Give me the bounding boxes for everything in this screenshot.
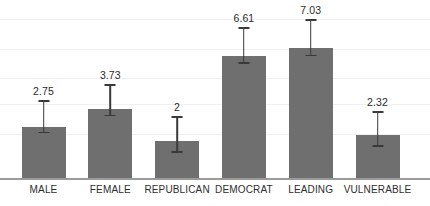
- error-bar-line: [176, 116, 178, 151]
- bar-value-label: 2.32: [367, 96, 388, 108]
- error-bar-line: [310, 19, 312, 54]
- error-bar-cap-top: [172, 116, 183, 118]
- error-bar-line: [377, 111, 379, 145]
- bar-value-label: 2: [174, 101, 180, 113]
- error-bar-cap-top: [38, 100, 49, 102]
- error-bar-cap-bottom: [305, 55, 316, 57]
- bar-value-label: 7.03: [300, 4, 321, 16]
- error-bar-line: [110, 84, 112, 114]
- error-bar-cap-bottom: [238, 62, 249, 64]
- bar-value-label: 6.61: [233, 12, 254, 24]
- bar: [222, 56, 266, 178]
- bar: [22, 127, 66, 178]
- category-label: FEMALE: [90, 184, 131, 195]
- gridline: [0, 19, 430, 20]
- gridline: [0, 104, 430, 105]
- bar-value-label: 3.73: [100, 69, 121, 81]
- error-bar-cap-top: [105, 84, 116, 86]
- error-bar-cap-bottom: [372, 145, 383, 147]
- bar: [289, 48, 333, 178]
- error-bar-cap-bottom: [172, 151, 183, 153]
- error-bar-cap-bottom: [38, 132, 49, 134]
- plot-area: 2.753.7326.617.032.32 MALEFEMALEREPUBLIC…: [0, 0, 430, 206]
- bar-value-label: 2.75: [33, 85, 54, 97]
- category-label: MALE: [30, 184, 58, 195]
- category-label: DEMOCRAT: [215, 184, 273, 195]
- bar-chart: 2.753.7326.617.032.32 MALEFEMALEREPUBLIC…: [0, 0, 430, 206]
- gridline: [0, 49, 430, 50]
- category-label: LEADING: [288, 184, 333, 195]
- error-bar-line: [243, 27, 245, 62]
- bar: [88, 109, 132, 178]
- x-axis-baseline: [0, 178, 430, 180]
- category-label: VULNERABLE: [344, 184, 412, 195]
- error-bar-line: [43, 100, 45, 131]
- error-bar-cap-bottom: [105, 115, 116, 117]
- error-bar-cap-top: [372, 111, 383, 113]
- error-bar-cap-top: [305, 19, 316, 21]
- error-bar-cap-top: [238, 27, 249, 29]
- category-label: REPUBLICAN: [144, 184, 209, 195]
- gridline: [0, 78, 430, 79]
